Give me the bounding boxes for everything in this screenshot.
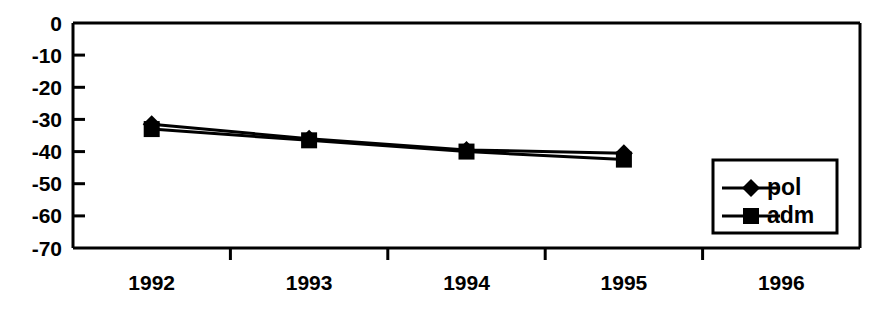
y-tick-label-0: 0 xyxy=(50,12,62,35)
x-tick-label-1995: 1995 xyxy=(601,271,648,294)
y-axis-ticks xyxy=(73,55,85,216)
series-line-pol xyxy=(152,124,624,153)
x-axis-tick-labels: 1992 1993 1994 1995 1996 xyxy=(128,271,804,294)
y-axis-tick-labels: 0 -10 -20 -30 -40 -50 -60 -70 xyxy=(32,12,62,260)
x-tick-label-1992: 1992 xyxy=(128,271,175,294)
y-tick-label-minus-60: -60 xyxy=(32,204,62,227)
y-tick-label-minus-20: -20 xyxy=(32,76,62,99)
square-marker-icon xyxy=(144,121,160,137)
y-tick-label-minus-30: -30 xyxy=(32,108,62,131)
x-axis-ticks xyxy=(230,248,702,260)
y-tick-label-minus-10: -10 xyxy=(32,44,62,67)
series-layer xyxy=(143,115,633,167)
square-marker-icon xyxy=(743,208,759,224)
legend: pol adm xyxy=(713,160,837,233)
legend-label-pol: pol xyxy=(767,174,802,200)
x-tick-label-1993: 1993 xyxy=(286,271,333,294)
square-marker-icon xyxy=(616,152,632,168)
x-tick-label-1994: 1994 xyxy=(443,271,490,294)
line-chart: 0 -10 -20 -30 -40 -50 -60 -70 1992 1993 … xyxy=(0,0,878,319)
legend-label-adm: adm xyxy=(767,202,814,228)
chart-canvas: 0 -10 -20 -30 -40 -50 -60 -70 1992 1993 … xyxy=(0,0,878,319)
square-marker-icon xyxy=(301,132,317,148)
square-marker-icon xyxy=(459,144,475,160)
y-tick-label-minus-50: -50 xyxy=(32,172,62,195)
x-tick-label-1996: 1996 xyxy=(758,271,805,294)
y-tick-label-minus-40: -40 xyxy=(32,140,62,163)
y-tick-label-minus-70: -70 xyxy=(32,237,62,260)
